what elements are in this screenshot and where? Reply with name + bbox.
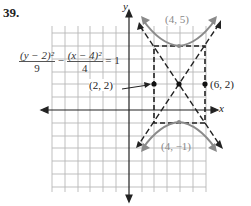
y-axis-label: y	[123, 0, 128, 12]
vertex-bottom-dot	[177, 120, 181, 124]
x-axis-arrow-left-icon	[41, 107, 48, 113]
axes	[41, 10, 218, 202]
asymptote-arrow-icon	[215, 140, 223, 149]
equation-term1: (y − 2)² 9	[19, 49, 55, 74]
vertex-top-dot	[177, 44, 181, 48]
center-dot	[176, 81, 181, 86]
point-2-2-dot	[151, 81, 156, 86]
equation: (y − 2)² 9 − (x − 4)² 4 = 1	[19, 49, 120, 74]
equation-term2: (x − 4)² 4	[67, 49, 103, 74]
x-axis-arrow-right-icon	[211, 107, 218, 113]
vertex-top-label: (4, 5)	[165, 13, 189, 25]
equation-rhs: = 1	[105, 54, 119, 66]
point-6-2-dot	[202, 81, 207, 86]
equation-minus: −	[58, 54, 64, 66]
x-axis-label: x	[219, 102, 224, 114]
leader-arrow-icon	[144, 82, 151, 88]
point-2-2-label: (2, 2)	[89, 79, 113, 91]
vertex-bottom-label: (4, −1)	[161, 140, 191, 152]
point-6-2-label: (6, 2)	[210, 78, 234, 90]
y-axis-arrow-down-icon	[126, 195, 132, 202]
label-leader-line	[122, 85, 148, 89]
hyperbola-graph	[0, 0, 251, 206]
